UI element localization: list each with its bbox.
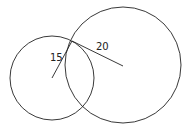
small-radius-label: 15 [50,52,63,63]
diagram-canvas: 15 20 [0,0,188,134]
large-radius-label: 20 [96,41,109,52]
large-circle [65,7,181,123]
